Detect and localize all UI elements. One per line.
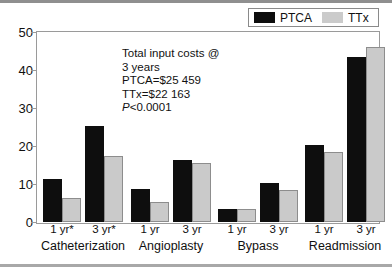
x-sub-label: 1 yr* (50, 224, 74, 236)
x-group-label-bypass: Bypass (238, 240, 279, 253)
bar-ttx-readmission-3-yr (366, 47, 385, 222)
annotation-line-2: 3 years (122, 61, 219, 75)
bar-ptca-readmission-3-yr (347, 57, 366, 222)
y-tick-label: 10 (3, 178, 33, 191)
x-sub-label: 1 yr (140, 224, 159, 236)
y-tick-mark (31, 32, 36, 33)
bar-ptca-catheterization-1-yr (43, 179, 62, 222)
bar-ttx-catheterization-3-yr (104, 156, 123, 223)
legend-entry-ttx: TTx (322, 12, 369, 24)
y-tick-mark (31, 184, 36, 185)
y-tick-label: 40 (3, 64, 33, 77)
x-sub-label: 3 yr (269, 224, 288, 236)
chart-annotation: Total input costs @ 3 years PTCA=$25 459… (122, 47, 219, 115)
bar-ttx-bypass-1-yr (237, 209, 256, 222)
bar-ttx-angioplasty-3-yr (192, 163, 211, 222)
bar-ptca-catheterization-3-yr (85, 126, 104, 222)
chart-figure: PTCA TTx 01020304050 1 yr*3 yr*Catheteri… (0, 0, 392, 267)
x-group-label-readmission: Readmission (309, 240, 381, 253)
bar-ptca-angioplasty-3-yr (173, 160, 192, 222)
y-tick-mark (31, 222, 36, 223)
x-sub-label: 1 yr (227, 224, 246, 236)
annotation-line-3: PTCA=$25 459 (122, 74, 219, 88)
annotation-p-symbol: P (122, 101, 130, 113)
annotation-line-4: TTx=$22 163 (122, 88, 219, 102)
x-axis: 1 yr*3 yr*Catheterization1 yr3 yrAngiopl… (0, 224, 392, 267)
bar-ttx-readmission-1-yr (324, 152, 343, 222)
annotation-p-value: <0.0001 (130, 101, 172, 113)
bar-ttx-catheterization-1-yr (62, 198, 81, 222)
y-tick-mark (31, 146, 36, 147)
legend-entry-ptca: PTCA (254, 12, 312, 24)
bar-ptca-angioplasty-1-yr (131, 189, 150, 222)
y-tick-label: 30 (3, 102, 33, 115)
legend-swatch-ttx-icon (322, 12, 343, 23)
bar-ptca-bypass-3-yr (260, 183, 279, 222)
chart-legend: PTCA TTx (248, 8, 379, 27)
x-sub-label: 3 yr (356, 224, 375, 236)
annotation-line-5: P<0.0001 (122, 101, 219, 115)
y-tick-mark (31, 108, 36, 109)
x-sub-label: 1 yr (314, 224, 333, 236)
y-tick-mark (31, 70, 36, 71)
bar-ttx-angioplasty-1-yr (150, 202, 169, 222)
annotation-line-1: Total input costs @ (122, 47, 219, 61)
y-tick-label: 50 (3, 26, 33, 39)
legend-label-ttx: TTx (348, 12, 369, 24)
y-tick-label: 20 (3, 140, 33, 153)
x-sub-label: 3 yr (182, 224, 201, 236)
bar-ptca-bypass-1-yr (218, 209, 237, 222)
x-sub-label: 3 yr* (92, 224, 116, 236)
bar-ttx-bypass-3-yr (279, 190, 298, 222)
legend-swatch-ptca-icon (254, 12, 275, 23)
bar-ptca-readmission-1-yr (305, 145, 324, 222)
scan-artifact-top (0, 0, 392, 3)
legend-label-ptca: PTCA (280, 12, 312, 24)
x-group-label-angioplasty: Angioplasty (139, 240, 204, 253)
x-group-label-catheterization: Catheterization (41, 240, 125, 253)
